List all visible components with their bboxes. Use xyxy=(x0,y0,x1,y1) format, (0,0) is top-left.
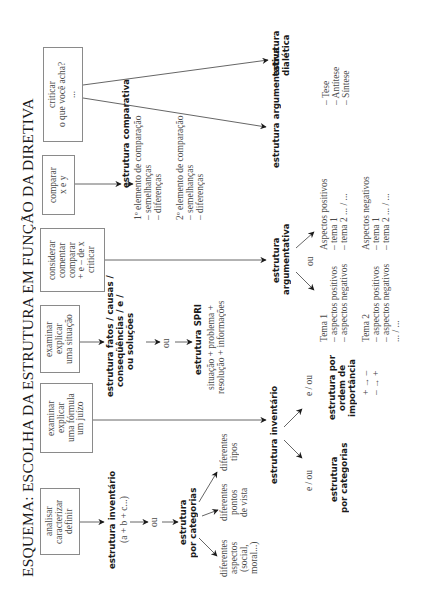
page-title: ESQUEMA: ESCOLHA DA ESTRUTURA EM FUNÇÃO … xyxy=(20,88,38,588)
inventario-formula: (a + b + c...) xyxy=(120,485,132,555)
elemento2-list: 2º elemento de comparação – semelhanças … xyxy=(176,120,212,220)
leaf-diferentes-aspectos: diferentes aspectos (social, moral...) xyxy=(220,528,264,588)
estrutura-inventario-2-label: estrutura inventário xyxy=(270,385,282,485)
ou-label-2: ou xyxy=(162,334,173,352)
tema2-list: Tema 2 – aspectos positivos – aspectos n… xyxy=(362,262,408,342)
leaf-diferentes-tipos: diferentes tipos xyxy=(220,428,244,476)
directive-box-analisar: analisar caracterizar definir xyxy=(40,488,80,555)
ou-label-3: ou xyxy=(306,252,317,270)
directive-box-considerar: considerar comentar comparar + e – de x … xyxy=(40,228,105,292)
estrutura-argumentativa-2-label: estrutura argumentativa xyxy=(272,98,296,168)
estrutura-dialetica-label: estrutura dialética xyxy=(272,38,296,76)
leaf-diferentes-pontos: diferentes pontos de vista xyxy=(220,478,254,526)
directive-box-criticar: criticar o que você acha? ... xyxy=(43,47,83,142)
e-ou-upper: e / ou xyxy=(305,370,316,400)
directive-box-situacao: examinar explicar uma situação xyxy=(40,305,80,373)
directive-box-formula: examinar explicar uma fórmula um juízo xyxy=(40,383,93,453)
estrutura-spri-label: estrutura SPRI xyxy=(194,310,206,375)
estrutura-categorias-label: estrutura por categorias xyxy=(179,485,201,560)
aspectos-positivos-list: Aspectos positivos – tema 1 – tema 2 ...… xyxy=(320,150,356,250)
estrutura-fatos-label: estrutura fatos / causas / conseqüências… xyxy=(106,285,144,397)
ou-label: ou xyxy=(150,512,161,532)
importancia-signs: + → – – → + xyxy=(362,365,386,400)
e-ou-lower: e / ou xyxy=(305,465,316,495)
estrutura-importancia-label: estrutura por ordem de importância xyxy=(328,355,360,420)
elemento1-list: 1º elemento de comparação – semelhanças … xyxy=(134,120,170,220)
estrutura-argumentativa-label: estrutura argumentativa xyxy=(272,225,296,295)
aspectos-negativos-list: Aspectos negativos – tema 1 – tema 2 ...… xyxy=(362,150,398,250)
tema1-list: Tema 1 – aspectos positivos – aspectos n… xyxy=(320,262,356,342)
dialetica-items: – Tese – Antítese – Síntese xyxy=(322,60,358,105)
directive-box-comparar: comparar x e y xyxy=(42,155,75,215)
estrutura-categorias-2-label: estrutura por categorias xyxy=(330,445,352,513)
spri-description: situação + problema + resolução + inform… xyxy=(207,300,231,395)
